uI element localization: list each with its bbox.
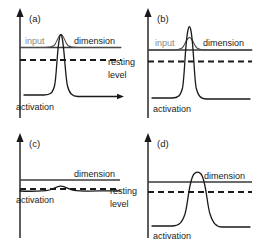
panel-a-resting-label-line2: level: [108, 70, 127, 80]
panel-d-activation-label: activation: [153, 231, 191, 241]
panel-d-y-axis: [144, 133, 151, 238]
panel-b-dimension-label: dimension: [203, 38, 244, 48]
panel-a-resting-label-line1: resting: [108, 57, 135, 67]
panel-b: (b) input dimension activation: [144, 8, 252, 118]
panel-d-dimension-label: dimension: [204, 171, 245, 181]
panel-c-y-axis: [16, 133, 23, 238]
panel-a-dimension-label: dimension: [74, 36, 115, 46]
panel-c-resting-label-line1: resting: [110, 186, 137, 196]
panel-a-tag: (a): [29, 13, 41, 24]
figure-container: (a) input dimension activation resting l…: [0, 0, 258, 246]
panel-b-tag: (b): [157, 13, 169, 24]
panel-b-input-label: input: [155, 38, 175, 48]
panel-a-activation-arrow: [117, 94, 124, 100]
panel-c: (c) dimension activation resting level: [16, 133, 137, 238]
panel-c-tag: (c): [29, 138, 40, 149]
panel-b-activation-label: activation: [153, 104, 191, 114]
panel-c-resting-label-line2: level: [110, 199, 129, 209]
panel-d-tag: (d): [157, 138, 169, 149]
panel-a-activation-label: activation: [16, 102, 54, 112]
panel-b-y-axis: [144, 8, 151, 118]
panel-c-dimension-label: dimension: [74, 169, 115, 179]
panel-c-activation-label: activation: [16, 195, 54, 205]
panel-d: (d) dimension activation: [144, 133, 252, 241]
panel-a-input-label: input: [25, 36, 45, 46]
panel-a: (a) input dimension activation resting l…: [16, 8, 135, 118]
